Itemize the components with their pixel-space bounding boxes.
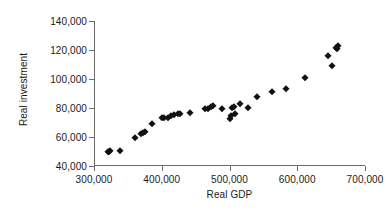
- x-tick-mark: [162, 166, 163, 171]
- x-tick-label: 700,000: [347, 174, 384, 185]
- y-axis-title: Real investment: [18, 20, 29, 160]
- y-tick-label: 100,000: [50, 74, 87, 85]
- x-tick-label: 300,000: [76, 174, 113, 185]
- plot-frame: [94, 21, 365, 166]
- y-tick-mark: [89, 50, 94, 51]
- y-tick-label: 60,000: [56, 132, 87, 143]
- y-tick-label: 80,000: [56, 103, 87, 114]
- y-tick-label: 120,000: [50, 45, 87, 56]
- y-tick-mark: [89, 21, 94, 22]
- x-tick-mark: [365, 166, 366, 171]
- scatter-chart: Real investment Real GDP 40,00060,00080,…: [0, 0, 392, 210]
- x-axis-title: Real GDP: [94, 189, 365, 200]
- y-tick-mark: [89, 108, 94, 109]
- y-tick-label: 40,000: [56, 161, 87, 172]
- y-tick-label: 140,000: [50, 16, 87, 27]
- x-tick-label: 400,000: [143, 174, 180, 185]
- x-tick-label: 600,000: [279, 174, 316, 185]
- x-tick-mark: [94, 166, 95, 171]
- x-tick-mark: [230, 166, 231, 171]
- x-tick-label: 500,000: [211, 174, 248, 185]
- x-tick-mark: [297, 166, 298, 171]
- y-tick-mark: [89, 137, 94, 138]
- y-tick-mark: [89, 79, 94, 80]
